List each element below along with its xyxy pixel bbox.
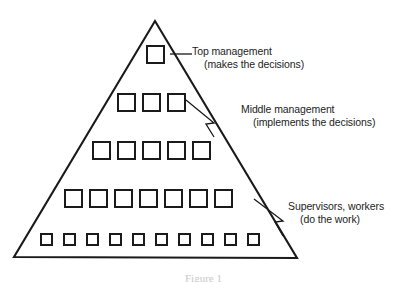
pyramid-graphic bbox=[0, 0, 407, 282]
org-unit-square bbox=[115, 190, 132, 207]
leader-line-supervisors bbox=[254, 199, 283, 236]
org-unit-square bbox=[143, 94, 160, 111]
org-unit-square bbox=[133, 234, 144, 245]
annotation-top-management-subtitle: (makes the decisions) bbox=[192, 58, 304, 71]
organizational-pyramid-diagram: Top management (makes the decisions) Mid… bbox=[0, 0, 407, 282]
org-unit-square bbox=[143, 142, 160, 159]
org-unit-square bbox=[64, 234, 75, 245]
org-unit-square bbox=[248, 234, 259, 245]
org-unit-square bbox=[168, 94, 185, 111]
org-unit-square bbox=[118, 94, 135, 111]
org-unit-square bbox=[65, 190, 82, 207]
annotation-supervisors-workers-title: Supervisors, workers bbox=[288, 200, 384, 212]
org-unit-square bbox=[179, 234, 190, 245]
annotation-middle-management-subtitle: (implements the decisions) bbox=[241, 116, 375, 129]
pyramid-level-5-squares bbox=[41, 234, 259, 245]
annotation-middle-management: Middle management (implements the decisi… bbox=[241, 103, 375, 129]
org-unit-square bbox=[118, 142, 135, 159]
annotation-top-management-title: Top management bbox=[192, 45, 272, 57]
annotation-middle-management-title: Middle management bbox=[241, 103, 334, 115]
org-unit-square bbox=[147, 46, 164, 63]
org-unit-square bbox=[202, 234, 213, 245]
org-unit-square bbox=[41, 234, 52, 245]
annotation-supervisors-workers-subtitle: (do the work) bbox=[288, 213, 384, 226]
org-unit-square bbox=[225, 234, 236, 245]
pyramid-level-2-squares bbox=[118, 94, 185, 111]
annotation-supervisors-workers: Supervisors, workers (do the work) bbox=[288, 200, 384, 226]
org-unit-square bbox=[165, 190, 182, 207]
annotation-top-management: Top management (makes the decisions) bbox=[192, 45, 304, 71]
org-unit-square bbox=[93, 142, 110, 159]
org-unit-square bbox=[168, 142, 185, 159]
org-unit-square bbox=[190, 190, 207, 207]
pyramid-level-1-squares bbox=[147, 46, 164, 63]
org-unit-square bbox=[110, 234, 121, 245]
pyramid-level-3-squares bbox=[93, 142, 210, 159]
org-unit-square bbox=[90, 190, 107, 207]
org-unit-square bbox=[140, 190, 157, 207]
figure-caption: Figure 1 bbox=[0, 272, 407, 282]
leader-line-middle-management bbox=[186, 100, 214, 137]
org-unit-square bbox=[156, 234, 167, 245]
org-unit-square bbox=[193, 142, 210, 159]
org-unit-square bbox=[215, 190, 232, 207]
org-unit-square bbox=[87, 234, 98, 245]
pyramid-level-4-squares bbox=[65, 190, 232, 207]
